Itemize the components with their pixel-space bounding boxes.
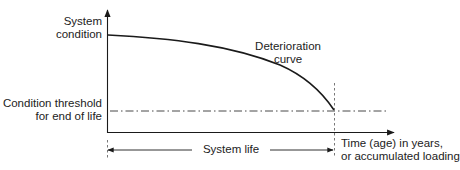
curve-label-line-2: curve [228,53,348,66]
threshold-label: Condition threshold for end of life [0,97,102,123]
threshold-label-line-1: Condition threshold [0,97,102,110]
threshold-label-line-2: for end of life [0,110,102,123]
system-life-label: System life [192,143,270,156]
system-life-text: System life [203,143,259,155]
x-axis-label-line-1: Time (age) in years, [341,137,460,150]
x-axis-label-line-2: or accumulated loading [341,150,460,163]
y-axis-label: System condition [44,15,102,41]
x-axis-label: Time (age) in years, or accumulated load… [341,137,460,163]
curve-label: Deterioration curve [228,40,348,66]
y-axis-label-line-1: System [44,15,102,28]
curve-label-line-1: Deterioration [228,40,348,53]
y-axis-label-line-2: condition [44,28,102,41]
